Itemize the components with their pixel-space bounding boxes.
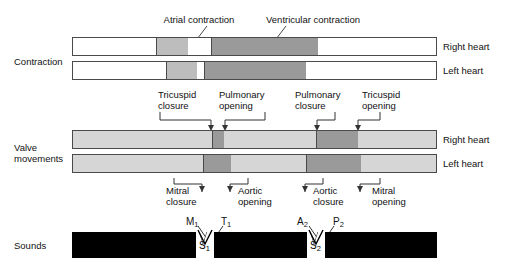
sound-point-t1-sub: 1: [227, 220, 231, 229]
segment-rest-late: [318, 38, 437, 55]
leader-pulmonary-closure: [295, 110, 355, 132]
leader-tricuspid-opening: [350, 110, 410, 132]
bar-contraction-left-heart: [72, 61, 437, 80]
cardiac-cycle-diagram: Atrial contraction Ventricular contracti…: [0, 0, 513, 265]
row-label-contraction: Contraction: [14, 56, 76, 67]
callout-pulmonary-closure: Pulmonary closure: [295, 89, 357, 111]
segment-ejection: [231, 155, 306, 172]
segment-isovolumetric-relaxation: [316, 131, 360, 148]
segment-valves-closed-early: [73, 131, 212, 148]
callout-aortic-closure: Aortic closure: [313, 185, 365, 207]
callout-aortic-opening: Aortic opening: [238, 185, 290, 207]
callout-mitral-opening: Mitral opening: [372, 185, 420, 207]
segment-ventricular-systole: [211, 38, 320, 55]
bar-sounds: [72, 232, 437, 258]
side-label-right-heart-valve: Right heart: [443, 134, 489, 145]
sound-point-m1: M1: [186, 216, 199, 227]
segment-valves-closed-late: [358, 131, 437, 148]
sound-label-s2-sub: 2: [317, 244, 321, 253]
sound-point-a2-label: A: [297, 216, 304, 227]
sound-label-s2-label: S: [310, 240, 317, 251]
segment-gap: [188, 38, 211, 55]
segment-rest-early: [73, 38, 156, 55]
segment-ejection: [224, 131, 316, 148]
callout-pulmonary-opening: Pulmonary opening: [219, 89, 281, 111]
segment-rest-early: [73, 62, 166, 79]
leader-tricuspid-closure: [158, 110, 218, 132]
bar-valve-left-heart: [72, 154, 437, 173]
sound-label-s2: S2: [310, 240, 321, 251]
sound-label-s1-sub: 1: [206, 244, 210, 253]
segment-valves-closed-late: [361, 155, 437, 172]
callout-tricuspid-opening: Tricuspid opening: [362, 89, 420, 111]
segment-ventricular-systole: [204, 62, 308, 79]
sound-label-s1-label: S: [199, 240, 206, 251]
row-label-sounds: Sounds: [14, 240, 74, 251]
segment-gap: [197, 62, 204, 79]
callout-mitral-closure: Mitral closure: [166, 185, 214, 207]
sound-point-p2-sub: 2: [340, 220, 344, 229]
sound-point-a2-sub: 2: [304, 220, 308, 229]
bar-contraction-right-heart: [72, 37, 437, 56]
callout-ventricular-contraction: Ventricular contraction: [248, 14, 378, 25]
callout-atrial-contraction: Atrial contraction: [146, 14, 252, 25]
segment-rest-late: [306, 62, 437, 79]
segment-atrial-systole: [166, 62, 199, 79]
sound-label-s1: S1: [199, 240, 210, 251]
segment-isovolumetric-relaxation: [306, 155, 363, 172]
side-label-left-heart-contraction: Left heart: [443, 65, 483, 76]
leader-pulmonary-opening: [219, 110, 279, 132]
side-label-left-heart-valve: Left heart: [443, 158, 483, 169]
segment-atrial-systole: [156, 38, 190, 55]
side-label-right-heart-contraction: Right heart: [443, 41, 489, 52]
segment-isovolumetric-contraction: [203, 155, 233, 172]
bar-valve-right-heart: [72, 130, 437, 149]
sound-point-a2: A2: [297, 216, 308, 227]
callout-tricuspid-closure: Tricuspid closure: [158, 89, 214, 111]
segment-valves-closed-early: [73, 155, 203, 172]
